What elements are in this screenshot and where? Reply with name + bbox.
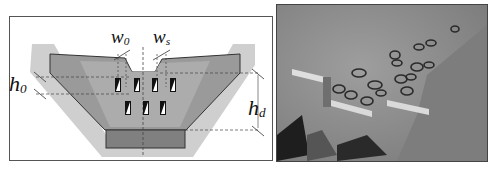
h0-label: h0	[9, 73, 27, 95]
w0-label: w0	[111, 27, 129, 47]
model-photo-panel	[276, 4, 488, 162]
dam-cross-section-drawing	[10, 17, 272, 160]
ws-label: ws	[153, 27, 170, 47]
model-photo	[277, 5, 487, 161]
dam-schematic-panel: w0 ws h0 hd	[9, 16, 273, 161]
hd-label: hd	[248, 97, 266, 119]
base-block	[106, 130, 185, 148]
